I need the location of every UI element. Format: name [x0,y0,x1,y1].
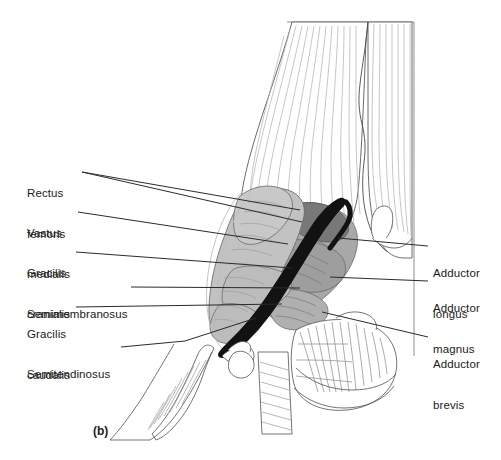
label-adductor-magnus-line1: Adductor [433,302,480,316]
label-adductor-brevis-line1: Adductor [433,358,480,372]
label-rectus-femoris-line1: Rectus [27,187,65,201]
panel-caption: (b) [93,424,108,438]
label-adductor-brevis-line2: brevis [433,399,480,413]
label-gracilis-cranialis-line1: Gracilis [27,267,70,281]
label-semitendinosus-line1: Semitendinosus [27,368,110,382]
label-adductor-brevis: Adductor brevis [433,331,480,439]
label-vastus-medialis-line1: Vastus [27,227,70,241]
label-gracilis-caudalis-line1: Gracilis [27,328,70,342]
figure-container: Rectus femoris Vastus medialis Gracilis … [0,0,501,460]
tibia-strip [258,352,292,434]
gluteal-fan-outline [291,319,397,410]
label-semitendinosus: Semitendinosus [27,341,110,409]
patella-shape [228,351,254,378]
